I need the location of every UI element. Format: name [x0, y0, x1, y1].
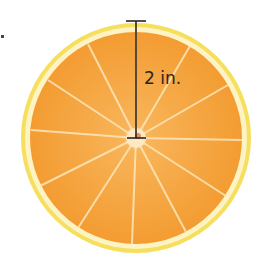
radius-label: 2 in.	[144, 68, 181, 88]
orange-figure	[0, 0, 270, 271]
